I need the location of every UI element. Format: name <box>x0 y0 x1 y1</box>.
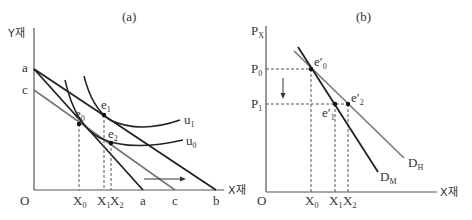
label-e-prime-0: e′0 <box>314 54 327 71</box>
panel-b-title: (b) <box>356 9 371 24</box>
panel-a-title: (a) <box>122 9 136 24</box>
label-dh: DH <box>408 155 423 172</box>
label-e2: e2 <box>108 126 118 143</box>
panel-a-y-intercept-a: a <box>22 60 28 75</box>
panel-b: (b) PX X재 O P0 P1 DH DM e′0 e′1 e′2 X0 X… <box>251 9 458 210</box>
x-intercept-b: b <box>213 193 220 208</box>
panel-a-x-axis-label: X재 <box>228 184 246 197</box>
panel-a-y-intercept-c: c <box>22 82 28 97</box>
label-e-prime-2: e′2 <box>351 90 364 107</box>
x-intercept-c: c <box>172 193 178 208</box>
panel-b-y-axis-label: PX <box>251 23 264 40</box>
tick-x2: X2 <box>110 193 123 210</box>
tick-bx0: X0 <box>305 193 318 210</box>
label-u1: u1 <box>184 112 195 129</box>
label-dm: DM <box>380 169 397 186</box>
diagram-canvas: (a) Y재 X재 O a c u1 u0 e0 e1 e2 X0 X1 X2 … <box>0 0 472 220</box>
tick-p1: P1 <box>251 96 262 113</box>
arrow-head-down-icon <box>281 93 286 99</box>
demand-curve-dm <box>298 47 378 172</box>
tick-bx1: X1 <box>329 193 342 210</box>
label-e-prime-1: e′1 <box>322 105 335 122</box>
x-intercept-a: a <box>140 193 146 208</box>
label-e1: e1 <box>101 97 111 114</box>
label-e0: e0 <box>75 106 85 123</box>
panel-a-origin: O <box>20 193 29 208</box>
point-e-prime-1 <box>333 102 337 106</box>
panel-b-x-axis-label: X재 <box>440 186 458 199</box>
indifference-curve-u1 <box>84 76 180 127</box>
point-e2 <box>109 141 113 145</box>
panel-b-origin: O <box>257 193 266 208</box>
tick-bx2: X2 <box>343 193 356 210</box>
tick-x1: X1 <box>97 193 110 210</box>
tick-x0: X0 <box>73 193 86 210</box>
arrow-head-right-icon <box>180 177 186 182</box>
point-e1 <box>102 113 106 117</box>
point-e-prime-0 <box>309 67 313 71</box>
point-e-prime-2 <box>346 102 350 106</box>
indifference-curve-u0 <box>65 80 183 146</box>
budget-line-a-b <box>34 69 216 190</box>
panel-a: (a) Y재 X재 O a c u1 u0 e0 e1 e2 X0 X1 X2 … <box>7 9 246 210</box>
panel-a-y-axis-label: Y재 <box>7 27 25 40</box>
label-u0: u0 <box>186 133 197 150</box>
tick-p0: P0 <box>251 61 262 78</box>
